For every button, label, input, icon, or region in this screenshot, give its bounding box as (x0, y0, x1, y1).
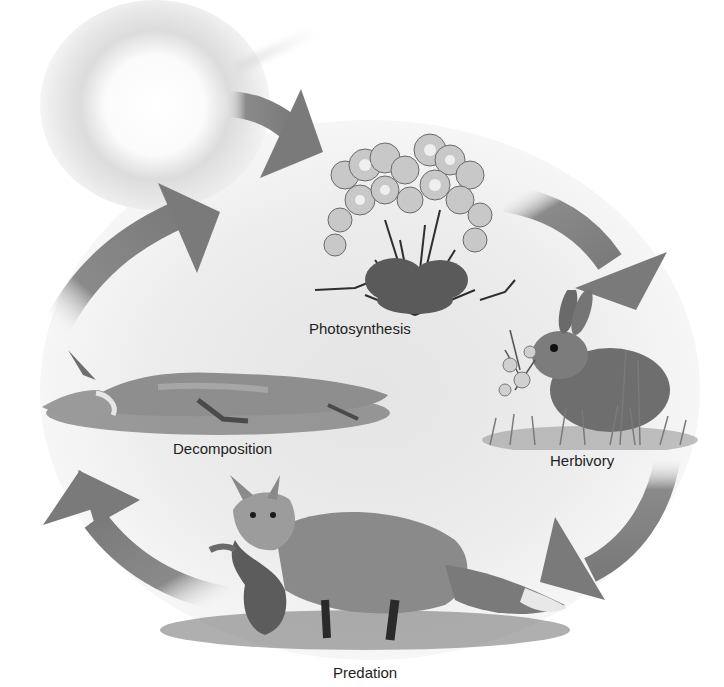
decomposition-label: Decomposition (173, 440, 272, 457)
rabbit-icon (480, 290, 700, 450)
ecosystem-cycle-diagram: Photosynthesis Herbivory Decomposition (0, 0, 724, 687)
fox-with-prey-icon (155, 470, 575, 650)
herbivory-label: Herbivory (550, 452, 614, 469)
dead-fox-icon (38, 335, 398, 440)
predation-label: Predation (333, 664, 397, 681)
arrow-decomposition-to-sun (55, 183, 220, 330)
